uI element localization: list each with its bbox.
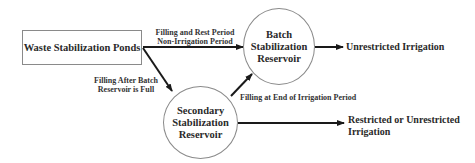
node-label-line: Secondary xyxy=(177,105,224,117)
edge-label-filling-end-of-irrigation: Filling at End of Irrigation Period xyxy=(240,93,356,102)
node-label: Waste Stabilization Ponds xyxy=(24,42,141,53)
edge-label-line: Filling and Rest Period xyxy=(152,28,238,37)
edge-label-filling-after-batch-full: Filling After Batch Reservoir is Full xyxy=(90,76,162,94)
diagram-edges xyxy=(0,0,475,163)
node-label-line: Reservoir xyxy=(257,53,301,65)
node-label-line: Stabilization xyxy=(172,117,229,129)
outcome-restricted-or-unrestricted-irrigation: Restricted or Unrestricted Irrigation xyxy=(348,114,475,138)
edge-label-line: Filling After Batch xyxy=(90,76,162,85)
node-label-line: Stabilization xyxy=(251,41,308,53)
node-batch-stabilization-reservoir: Batch Stabilization Reservoir xyxy=(243,8,315,85)
outcome-unrestricted-irrigation: Unrestricted Irrigation xyxy=(346,41,444,53)
node-secondary-stabilization-reservoir: Secondary Stabilization Reservoir xyxy=(163,86,238,159)
flow-diagram: Waste Stabilization Ponds Batch Stabiliz… xyxy=(0,0,475,163)
edge-label-line: Non-Irrigation Period xyxy=(152,37,238,46)
node-label-line: Reservoir xyxy=(179,129,223,141)
node-label-line: Batch xyxy=(266,29,292,41)
edge-label-line: Reservoir is Full xyxy=(90,85,162,94)
edge-label-filling-rest-period: Filling and Rest Period Non-Irrigation P… xyxy=(152,28,238,46)
node-waste-stabilization-ponds: Waste Stabilization Ponds xyxy=(22,30,142,65)
